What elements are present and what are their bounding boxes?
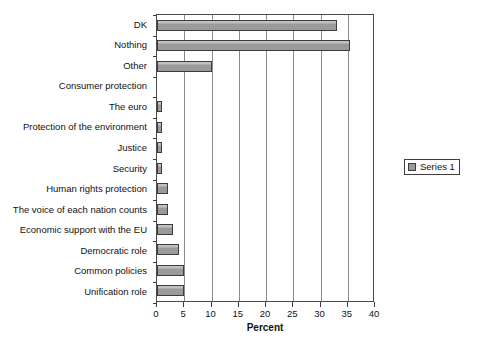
bar-row [157, 178, 373, 198]
category-tick [153, 262, 157, 263]
series-1-swatch [408, 163, 416, 171]
category-label: Consumer protection [0, 76, 152, 97]
bar-row [157, 280, 373, 300]
category-tick [153, 77, 157, 78]
category-tick [153, 118, 157, 119]
x-axis-tick-labels: 0510152025303540 [156, 307, 374, 320]
bar-series [157, 15, 373, 301]
category-tick [153, 138, 157, 139]
bar [157, 204, 168, 215]
category-tick [153, 159, 157, 160]
category-label: The euro [0, 96, 152, 117]
bar-row [157, 15, 373, 35]
legend-label: Series 1 [420, 162, 455, 172]
x-tick-label: 10 [205, 307, 216, 320]
x-tick-label: 40 [369, 307, 380, 320]
bar [157, 101, 162, 112]
category-tick [153, 15, 157, 16]
bar-row [157, 199, 373, 219]
category-label: Protection of the environment [0, 117, 152, 138]
bar-row [157, 260, 373, 280]
bar-row [157, 35, 373, 55]
category-tick [153, 56, 157, 57]
plot-area [156, 14, 374, 302]
category-tick [153, 36, 157, 37]
bar [157, 122, 162, 133]
x-tick-label: 25 [287, 307, 298, 320]
category-tick [153, 221, 157, 222]
bar-chart: DK Nothing Other Consumer protection The… [0, 0, 477, 350]
x-tick-label: 35 [341, 307, 352, 320]
category-tick [153, 200, 157, 201]
category-label: Common policies [0, 261, 152, 282]
category-tick [153, 180, 157, 181]
bar-row [157, 158, 373, 178]
bar-row [157, 117, 373, 137]
bar [157, 285, 184, 296]
bar-row [157, 97, 373, 117]
bar-row [157, 240, 373, 260]
category-axis-labels: DK Nothing Other Consumer protection The… [0, 14, 152, 302]
category-label: Unification role [0, 282, 152, 303]
bar [157, 265, 184, 276]
legend: Series 1 [404, 159, 460, 175]
category-label: Nothing [0, 35, 152, 56]
category-label: Security [0, 158, 152, 179]
bar-row [157, 76, 373, 96]
x-tick-label: 30 [314, 307, 325, 320]
category-label: Justice [0, 137, 152, 158]
category-label: The voice of each nation counts [0, 199, 152, 220]
category-label: Human rights protection [0, 179, 152, 200]
x-tick-label: 0 [153, 307, 158, 320]
x-axis-title: Percent [156, 322, 374, 333]
bar [157, 61, 212, 72]
category-label: DK [0, 14, 152, 35]
bar-row [157, 138, 373, 158]
bar-row [157, 56, 373, 76]
bar [157, 40, 350, 51]
bar-row [157, 219, 373, 239]
category-label: Democratic role [0, 240, 152, 261]
x-tick-label: 5 [181, 307, 186, 320]
bar [157, 224, 173, 235]
category-tick [153, 241, 157, 242]
bar [157, 142, 162, 153]
category-label: Economic support with the EU [0, 220, 152, 241]
category-tick [153, 97, 157, 98]
x-tick-label: 15 [232, 307, 243, 320]
bar [157, 163, 162, 174]
bar [157, 244, 179, 255]
bar [157, 20, 337, 31]
bar [157, 183, 168, 194]
category-tick [153, 282, 157, 283]
x-tick-label: 20 [260, 307, 271, 320]
category-label: Other [0, 55, 152, 76]
